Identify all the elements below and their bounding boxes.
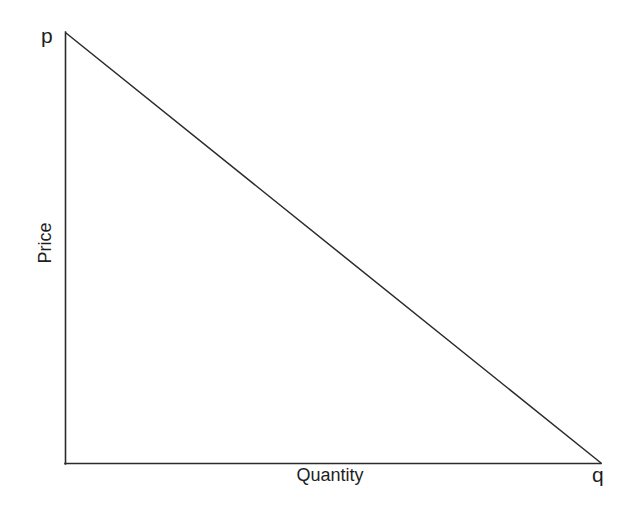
x-axis-label: Quantity [296,466,363,484]
demand-curve-figure: p q Quantity Price [0,0,623,511]
demand-curve-line [66,33,601,463]
plot-canvas [0,0,623,511]
y-axis-label: Price [36,222,54,263]
x-intercept-label-q: q [592,464,604,485]
y-intercept-label-p: p [41,25,53,46]
